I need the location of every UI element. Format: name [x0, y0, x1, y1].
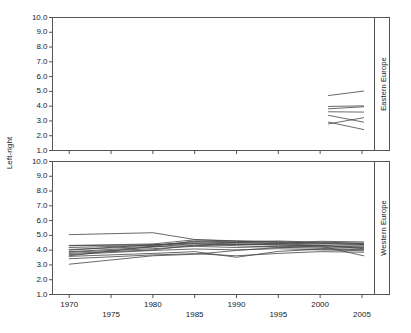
- y-tick-label: 5.0: [36, 231, 47, 239]
- y-tick-label: 7.0: [36, 58, 47, 66]
- y-tick-label: 10.0: [32, 158, 48, 166]
- plot-area: [0, 0, 411, 333]
- y-tick-label: 9.0: [36, 172, 47, 180]
- x-tick-label: 1990: [221, 301, 253, 309]
- x-tick-label: 1995: [262, 311, 294, 319]
- y-tick-label: 2.0: [36, 276, 47, 284]
- x-tick-label: 1980: [137, 301, 169, 309]
- series-line: [329, 107, 364, 109]
- x-tick-label: 2005: [346, 311, 378, 319]
- x-tick-label: 1985: [179, 311, 211, 319]
- y-axis-label: Left-right: [2, 118, 16, 188]
- y-tick-label: 1.0: [36, 291, 47, 299]
- series-line: [329, 122, 364, 129]
- y-tick-label: 1.0: [36, 147, 47, 155]
- x-tick-label: 2000: [304, 301, 336, 309]
- y-tick-label: 8.0: [36, 43, 47, 51]
- series-line: [329, 106, 364, 107]
- x-tick-label: 1975: [95, 311, 127, 319]
- y-tick-label: 2.0: [36, 132, 47, 140]
- y-tick-label: 10.0: [32, 14, 48, 22]
- y-tick-label: 3.0: [36, 117, 47, 125]
- y-tick-label: 5.0: [36, 87, 47, 95]
- panel-label-eastern-europe: Eastern Europe: [376, 18, 391, 151]
- chart-figure: Left-right Eastern Europe Western Europe…: [0, 0, 411, 333]
- panel-label-western-europe: Western Europe: [376, 162, 391, 295]
- y-tick-label: 4.0: [36, 102, 47, 110]
- y-tick-label: 9.0: [36, 28, 47, 36]
- y-tick-label: 4.0: [36, 246, 47, 254]
- y-tick-label: 3.0: [36, 261, 47, 269]
- y-tick-label: 6.0: [36, 217, 47, 225]
- x-tick-label: 1970: [53, 301, 85, 309]
- y-tick-label: 8.0: [36, 187, 47, 195]
- y-tick-label: 6.0: [36, 73, 47, 81]
- y-tick-label: 7.0: [36, 202, 47, 210]
- series-line: [329, 91, 364, 95]
